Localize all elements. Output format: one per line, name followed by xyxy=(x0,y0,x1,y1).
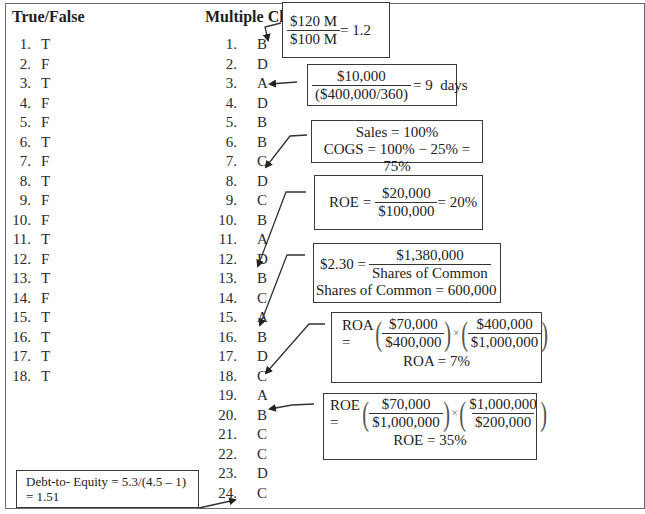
debt-equity-box: Debt-to- Equity = 5.3/(4.5 – 1) = 1.51 xyxy=(16,470,199,508)
left-paren: ( xyxy=(362,397,369,431)
question-number: 17. xyxy=(0,347,31,366)
answer-letter: T xyxy=(41,172,50,191)
answer-letter: T xyxy=(41,269,50,288)
numerator: $20,000 xyxy=(379,185,434,202)
answer-letter: A xyxy=(257,230,268,249)
cogs-line: COGS = 100% − 25% = 75% xyxy=(312,141,482,175)
denominator: $200,000 xyxy=(472,413,534,431)
question-number: 10. xyxy=(0,211,31,230)
true-false-heading: True/False xyxy=(12,8,85,26)
numerator: $1,380,000 xyxy=(393,247,467,264)
answer-letter: T xyxy=(41,347,50,366)
roe-fraction-1: $70,000 $1,000,000 xyxy=(369,396,443,431)
answer-letter: T xyxy=(41,308,50,327)
numerator: $10,000 xyxy=(334,68,389,85)
question-number: 13. xyxy=(197,269,237,288)
question-number: 2. xyxy=(0,55,31,74)
question-number: 14. xyxy=(0,289,31,308)
question-number: 10. xyxy=(197,211,237,230)
label: ROE = xyxy=(330,397,360,431)
answer-letter: C xyxy=(257,425,267,444)
cogs-box: Sales = 100% COGS = 100% − 25% = 75% xyxy=(311,120,483,163)
roa-result: ROA = 7% xyxy=(332,353,541,370)
answer-letter: A xyxy=(257,308,268,327)
question-number: 4. xyxy=(0,94,31,113)
answer-letter: T xyxy=(41,74,50,93)
question-number: 18. xyxy=(0,367,31,386)
answer-letter: B xyxy=(257,211,267,230)
denominator: $400,000 xyxy=(382,333,444,351)
right-paren: ) xyxy=(445,317,452,351)
right-paren: ) xyxy=(540,397,547,431)
numerator: $70,000 xyxy=(379,396,434,413)
question-number: 8. xyxy=(0,172,31,191)
question-number: 16. xyxy=(197,328,237,347)
question-number: 7. xyxy=(0,152,31,171)
question-number: 20. xyxy=(197,406,237,425)
question-number: 9. xyxy=(197,191,237,210)
right-paren: ) xyxy=(443,397,450,431)
question-number: 4. xyxy=(197,94,237,113)
days-sales-box: $10,000 ($400,000/360) = 9 days xyxy=(307,64,457,106)
debt-equity-line1: Debt-to- Equity = 5.3/(4.5 – 1) xyxy=(26,474,198,489)
left-paren: ( xyxy=(461,317,468,351)
times-sign: × xyxy=(453,326,460,341)
question-number: 8. xyxy=(197,172,237,191)
left-paren: ( xyxy=(375,317,382,351)
roe-result: ROE = 35% xyxy=(324,432,536,449)
numerator: $400,000 xyxy=(473,316,535,333)
question-number: 7. xyxy=(197,152,237,171)
roe-fraction: $20,000 $100,000 xyxy=(375,185,437,220)
answer-letter: B xyxy=(257,406,267,425)
answer-letter: B xyxy=(257,113,267,132)
label: $2.30 = xyxy=(320,256,366,273)
sales-line: Sales = 100% xyxy=(312,124,482,141)
numerator: $120 M xyxy=(287,13,340,30)
current-ratio-box: $120 M $100 M = 1.2 xyxy=(282,2,390,58)
question-number: 23. xyxy=(197,464,237,483)
denominator: Shares of Common xyxy=(369,264,491,282)
question-number: 11. xyxy=(197,230,237,249)
right-paren: ) xyxy=(542,317,549,351)
days-sales-fraction: $10,000 ($400,000/360) xyxy=(312,68,411,103)
answer-letter: A xyxy=(257,74,268,93)
answer-letter: C xyxy=(257,191,267,210)
question-number: 5. xyxy=(197,113,237,132)
question-number: 11. xyxy=(0,230,31,249)
question-number: 1. xyxy=(197,35,237,54)
answer-letter: T xyxy=(41,133,50,152)
label: ROE = xyxy=(329,194,371,211)
question-number: 3. xyxy=(0,74,31,93)
question-number: 13. xyxy=(0,269,31,288)
result: = 9 days xyxy=(413,77,468,94)
shares-line: Shares of Common = 600,000 xyxy=(314,282,500,299)
roe-fraction-2: $1,000,000 $200,000 xyxy=(466,396,540,431)
answer-letter: T xyxy=(41,35,50,54)
answer-letter: C xyxy=(257,445,267,464)
answer-letter: B xyxy=(257,35,267,54)
answer-letter: D xyxy=(257,94,268,113)
question-number: 3. xyxy=(197,74,237,93)
numerator: $1,000,000 xyxy=(466,396,540,413)
question-number: 5. xyxy=(0,113,31,132)
result: = 1.2 xyxy=(340,22,371,39)
denominator: $100 M xyxy=(287,30,340,48)
roe-simple-box: ROE = $20,000 $100,000 = 20% xyxy=(314,175,483,230)
numerator: $70,000 xyxy=(386,316,441,333)
question-number: 15. xyxy=(0,308,31,327)
question-number: 14. xyxy=(197,289,237,308)
answer-letter: B xyxy=(257,328,267,347)
question-number: 19. xyxy=(197,386,237,405)
answer-letter: F xyxy=(41,55,49,74)
answer-letter: D xyxy=(257,347,268,366)
question-number: 12. xyxy=(0,250,31,269)
roe-dupont-box: ROE = ( $70,000 $1,000,000 ) × ( $1,000,… xyxy=(323,393,537,460)
eps-box: $2.30 = $1,380,000 Shares of Common Shar… xyxy=(313,243,501,303)
roa-fraction-1: $70,000 $400,000 xyxy=(382,316,444,351)
question-number: 16. xyxy=(0,328,31,347)
debt-equity-line2: = 1.51 xyxy=(26,489,198,504)
question-number: 22. xyxy=(197,445,237,464)
denominator: $100,000 xyxy=(375,202,437,220)
answer-letter: T xyxy=(41,367,50,386)
answer-letter: F xyxy=(41,250,49,269)
